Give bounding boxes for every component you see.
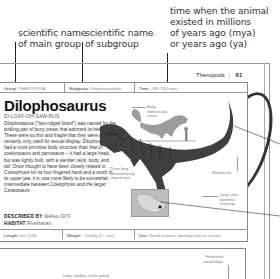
next-entry-card: Feathered sexual flaps Long, shallow, si… xyxy=(0,248,246,279)
leader-line xyxy=(228,265,229,279)
label-jaws: Long, shallow, sickle-jawed xyxy=(63,274,109,279)
pointer-overlay xyxy=(0,0,280,279)
label-line: sexual flaps xyxy=(203,260,223,265)
label-feathers: Feathered sexual flaps xyxy=(203,255,223,264)
label-line: Long, shallow, sickle-jawed xyxy=(63,274,109,279)
label-line: Feathered xyxy=(203,255,223,260)
